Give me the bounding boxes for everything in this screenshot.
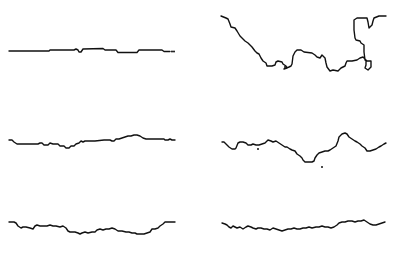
profile-line-bottom-left <box>9 222 175 234</box>
marker-dot <box>173 51 175 53</box>
panel-middle-right <box>222 133 386 162</box>
profile-line-middle-right <box>222 133 386 162</box>
marker-dot <box>257 148 259 150</box>
profile-line-bottom-right <box>222 220 385 231</box>
marker-dot <box>321 166 323 168</box>
panel-bottom-left <box>9 222 175 234</box>
trace-canvas <box>0 0 402 253</box>
marker-dot <box>284 66 286 68</box>
panel-middle-left <box>9 135 175 148</box>
profile-line-top-left <box>9 49 170 53</box>
marker-dots <box>171 51 323 169</box>
marker-dot <box>171 51 173 53</box>
profile-line-middle-left <box>9 135 175 148</box>
panel-top-left <box>9 49 170 53</box>
panel-top-right <box>221 16 386 71</box>
profile-line-top-right <box>221 16 386 71</box>
panel-bottom-right <box>222 220 385 231</box>
